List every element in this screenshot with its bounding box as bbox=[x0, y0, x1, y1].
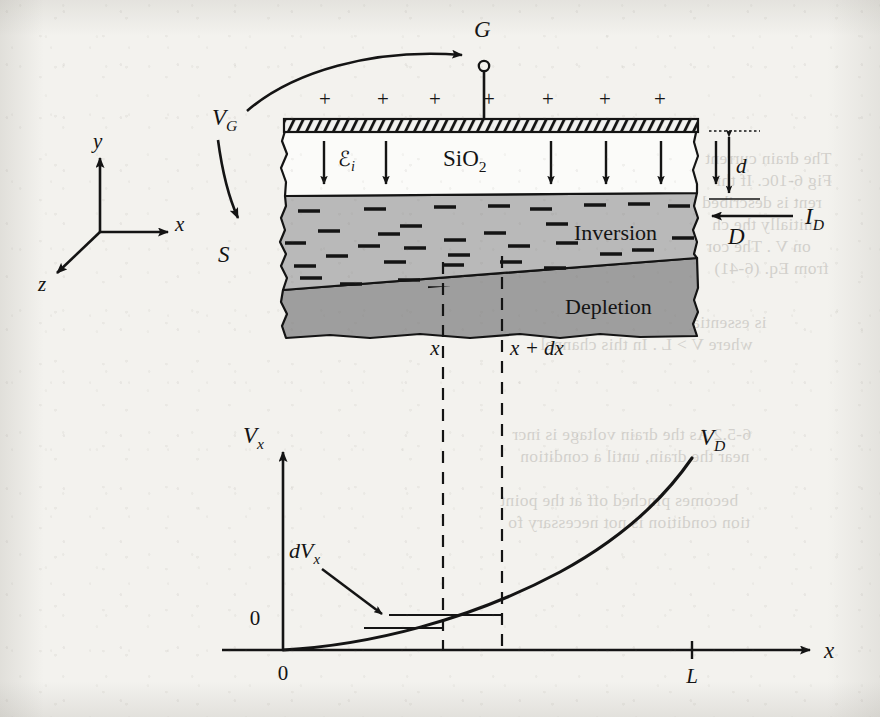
dvx-level-lines bbox=[364, 615, 502, 628]
oxide-thickness-label: d bbox=[736, 154, 747, 178]
dvx-label: dVx bbox=[289, 538, 320, 567]
channel-voltage-plot: Vx x 0 0 L VD dVx bbox=[222, 423, 835, 688]
plot-y-axis-label: Vx bbox=[243, 423, 264, 452]
slice-left-label: x bbox=[429, 336, 440, 360]
plot-y-origin-label: 0 bbox=[250, 606, 261, 630]
depletion-region-label: Depletion bbox=[565, 294, 652, 319]
figure-root: The drain current Fig 6-10c. If thi rent… bbox=[0, 0, 880, 717]
drain-terminal-group: D ID bbox=[712, 204, 825, 249]
plot-x-axis-label: x bbox=[823, 638, 835, 663]
plot-x-origin-label: 0 bbox=[278, 661, 289, 685]
gate-voltage-label: VG bbox=[212, 105, 237, 134]
gate-charge-plus: + bbox=[429, 87, 441, 111]
gate-electrode bbox=[284, 119, 698, 132]
gate-voltage-group: VG S bbox=[212, 105, 238, 267]
coordinate-axes-3d: y x z bbox=[37, 129, 185, 296]
axis-label-z: z bbox=[37, 272, 46, 296]
gate-charge-plus: + bbox=[483, 87, 495, 111]
gate-charge-row: + + + + + + + bbox=[319, 87, 666, 111]
figure-canvas: y x z G VG S + + + + + + + bbox=[0, 0, 880, 717]
gate-terminal-label: G bbox=[474, 17, 491, 42]
gate-charge-plus: + bbox=[599, 87, 611, 111]
channel-voltage-curve bbox=[283, 458, 692, 650]
gate-charge-plus: + bbox=[654, 87, 666, 111]
slice-right-label: x + dx bbox=[509, 336, 564, 360]
gate-charge-plus: + bbox=[542, 87, 554, 111]
gate-terminal-group: G bbox=[247, 17, 491, 126]
drain-voltage-label: VD bbox=[700, 425, 726, 454]
dvx-leader-arrow bbox=[322, 569, 382, 614]
gate-charge-plus: + bbox=[377, 87, 389, 111]
axis-label-x: x bbox=[174, 212, 185, 236]
gate-charge-plus: + bbox=[319, 87, 331, 111]
drain-current-label: ID bbox=[804, 204, 825, 233]
axis-label-y: y bbox=[91, 129, 103, 153]
drain-terminal-label: D bbox=[727, 224, 745, 249]
channel-length-label: L bbox=[685, 664, 698, 688]
inversion-region-label: Inversion bbox=[574, 220, 657, 245]
source-terminal-label: S bbox=[218, 242, 230, 267]
